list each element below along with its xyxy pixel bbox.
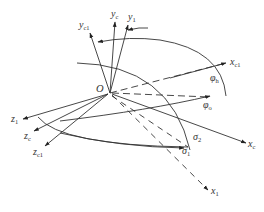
arc-sigma — [60, 133, 184, 148]
label-z-1: z1 — [11, 114, 18, 126]
coordinate-frame-diagram — [0, 0, 264, 212]
label-origin: O — [96, 84, 104, 95]
label-sigma-2: σ2 — [193, 132, 201, 144]
arc-phi-o — [60, 96, 210, 121]
label-z-c1: zc1 — [33, 147, 43, 159]
label-y-c: yc — [111, 9, 118, 21]
label-phi-o: φo — [203, 100, 212, 112]
label-z-c: zc — [24, 131, 31, 143]
label-x-c1: xc1 — [230, 57, 241, 69]
arc-y1-rotation — [128, 28, 148, 30]
label-y-1: y1 — [128, 12, 136, 24]
label-phi-h: φh — [210, 73, 219, 85]
z-c1-axis — [45, 94, 108, 146]
label-x-c: xc — [248, 139, 255, 151]
arc-outer-sweep — [77, 63, 190, 150]
x-projection-dashed — [112, 96, 188, 147]
label-sigma-1: σ1 — [182, 146, 190, 158]
label-y-c1: yc1 — [79, 20, 90, 32]
label-x-1: x1 — [211, 186, 219, 198]
